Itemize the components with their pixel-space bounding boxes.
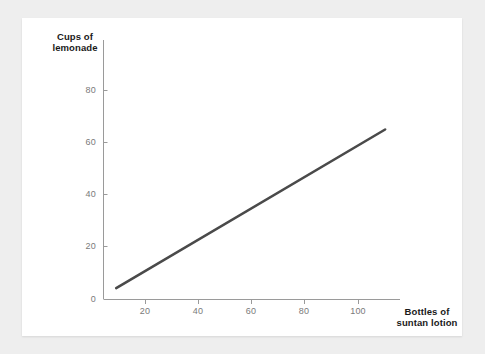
chart-card: Cups of lemonade Bottles of suntan lotio… bbox=[22, 18, 462, 336]
chart-plot-area: Cups of lemonade Bottles of suntan lotio… bbox=[22, 18, 462, 336]
chart-svg bbox=[22, 18, 462, 336]
screenshot-root: Cups of lemonade Bottles of suntan lotio… bbox=[0, 0, 485, 354]
data-line-series-1 bbox=[116, 130, 385, 289]
